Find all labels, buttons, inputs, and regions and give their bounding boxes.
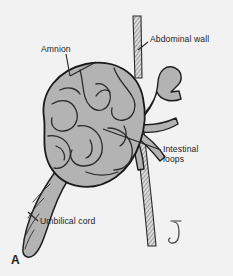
label-intestinal-loops: Intestinalloops: [163, 144, 198, 164]
label-intestinal-loops-line2: loops: [163, 154, 184, 164]
figure-panel-a: Amnion Abdominal wall Intestinalloops Um…: [0, 0, 233, 276]
label-umbilical-cord: Umbilical cord: [40, 216, 95, 226]
label-abdominal-wall: Abdominal wall: [150, 34, 209, 44]
panel-letter: A: [11, 253, 20, 267]
label-amnion: Amnion: [41, 44, 71, 54]
abdominal-wall-upper: [133, 16, 142, 78]
label-intestinal-loops-line1: Intestinal: [163, 144, 198, 154]
